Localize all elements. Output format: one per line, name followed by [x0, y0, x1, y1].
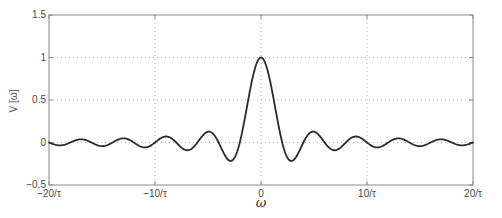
figure: V [ω] ω −20/τ−10/τ010/τ20/τ−0.500.511.5: [0, 0, 502, 218]
x-tick-label: 0: [258, 189, 264, 199]
plot-area: [0, 0, 502, 218]
y-tick-label: 0: [40, 138, 46, 148]
y-tick-label: 1: [40, 53, 46, 63]
x-tick-label: 20/τ: [464, 189, 482, 199]
y-tick-label: 0.5: [32, 95, 46, 105]
x-tick-label: 10/τ: [358, 189, 376, 199]
y-tick-label: 1.5: [32, 10, 46, 20]
x-tick-label: −10/τ: [143, 189, 167, 199]
signal-curve: [49, 58, 473, 161]
x-tick-label: −20/τ: [37, 189, 61, 199]
y-axis-label: V [ω]: [9, 90, 19, 113]
y-tick-label: −0.5: [26, 180, 46, 190]
